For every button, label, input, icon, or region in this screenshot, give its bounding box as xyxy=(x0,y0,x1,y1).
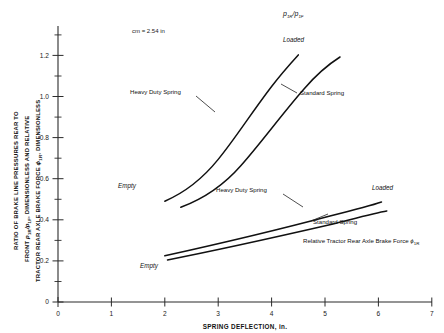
y-axis-title-line3: TRACTOR REAR AXLE BRAKE FORCE ϕ1R, DIMEN… xyxy=(35,100,43,282)
y-ticklabel-0.2: 0.2 xyxy=(40,257,49,264)
unit-conversion-note: cm = 2.54 in xyxy=(132,28,165,34)
label-loaded-upper: Loaded xyxy=(283,36,305,43)
x-ticklabel-4: 4 xyxy=(270,310,274,317)
curve-heavy-duty-spring-pressure xyxy=(165,55,298,201)
chart-figure: 0 0.2 0.4 0.6 0.8 1.0 1.2 0 1 2 3 4 5 6 … xyxy=(0,0,444,333)
y-axis-title-line2: FRONT p1R/p1F, DIMENSIONLESS AND RELATIV… xyxy=(24,116,32,262)
y-axis-title-line1: RATIO OF BRAKE LINE PRESSURES REAR TO xyxy=(13,111,19,250)
x-axis: 0 1 2 3 4 5 6 7 SPRING DEFLECTION, in. xyxy=(56,297,434,331)
chart-svg: 0 0.2 0.4 0.6 0.8 1.0 1.2 0 1 2 3 4 5 6 … xyxy=(0,0,444,333)
y-ticklabel-1.2: 1.2 xyxy=(40,52,49,59)
curve-standard-spring-pressure xyxy=(181,57,340,207)
y-ticklabel-1.0: 1.0 xyxy=(40,93,49,100)
label-loaded-lower: Loaded xyxy=(372,184,394,191)
label-empty-lower: Empty xyxy=(140,262,159,270)
x-axis-title: SPRING DEFLECTION, in. xyxy=(203,323,288,331)
label-heavy-duty-spring-upper: Heavy Duty Spring xyxy=(130,88,181,95)
pressure-ratio-curve-group: Heavy Duty Spring Standard Spring Loaded… xyxy=(118,36,344,207)
x-ticklabel-1: 1 xyxy=(110,310,114,317)
y-ticklabel-0.4: 0.4 xyxy=(40,216,49,223)
y-ticklabel-0.8: 0.8 xyxy=(40,134,49,141)
pressure-ratio-symbol: p1R/p1F xyxy=(282,10,304,19)
label-empty-upper: Empty xyxy=(118,182,137,190)
brake-force-annotation: Relative Tractor Rear Axle Brake Force ϕ… xyxy=(303,237,419,246)
x-ticklabel-7: 7 xyxy=(430,310,434,317)
label-standard-spring-upper: Standard Spring xyxy=(300,89,344,96)
label-heavy-duty-spring-lower: Heavy Duty Spring xyxy=(216,186,267,193)
curve-heavy-duty-spring-brakeforce xyxy=(165,202,382,256)
x-ticklabel-0: 0 xyxy=(56,310,60,317)
label-standard-spring-lower: Standard Spring xyxy=(313,218,357,225)
brake-force-curve-group: Heavy Duty Spring Standard Spring Loaded… xyxy=(140,184,419,270)
y-ticklabel-0.6: 0.6 xyxy=(40,175,49,182)
x-ticklabel-2: 2 xyxy=(163,310,167,317)
y-ticklabel-0: 0 xyxy=(45,298,49,305)
y-axis: 0 0.2 0.4 0.6 0.8 1.0 1.2 xyxy=(40,26,64,305)
x-ticklabel-6: 6 xyxy=(377,310,381,317)
x-ticklabel-5: 5 xyxy=(323,310,327,317)
y-axis-title: RATIO OF BRAKE LINE PRESSURES REAR TO FR… xyxy=(13,100,43,282)
leader-heavy-duty-upper xyxy=(196,96,215,112)
leader-heavy-duty-lower xyxy=(283,194,303,207)
leader-standard-upper xyxy=(281,84,297,93)
x-ticklabel-3: 3 xyxy=(216,310,220,317)
